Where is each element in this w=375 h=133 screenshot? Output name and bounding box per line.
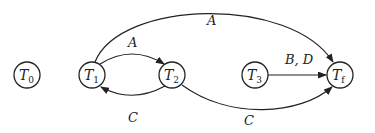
node-tf: Tf	[327, 62, 353, 88]
edge-label-t1-t2: A	[127, 35, 137, 50]
node-t0: T0	[14, 62, 40, 88]
edge-t1-t2	[100, 54, 164, 64]
state-diagram: A C A B, D C T0 T1 T2 T3 Tf	[0, 0, 375, 133]
edge-label-t1-tf: A	[206, 13, 216, 28]
edge-label-t2-tf: C	[244, 113, 254, 128]
node-t3: T3	[242, 62, 268, 88]
node-t2: T2	[159, 62, 185, 88]
edge-t2-tf	[182, 85, 332, 110]
node-t1: T1	[79, 62, 105, 88]
edge-t2-t1	[101, 86, 165, 95]
edge-label-t2-t1: C	[128, 110, 138, 125]
edge-label-t3-tf: B, D	[284, 52, 314, 67]
